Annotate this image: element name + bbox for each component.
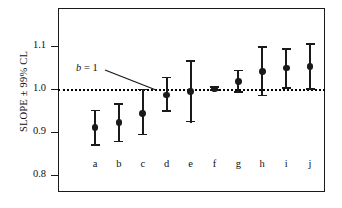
error-bar-cap-upper (258, 46, 267, 48)
error-bar-cap-upper (306, 43, 315, 45)
error-bar-cap-lower (186, 121, 195, 123)
x-axis-category-label: f (204, 158, 224, 169)
y-axis-tick-mark (51, 132, 59, 133)
annotation-leader-line (104, 68, 164, 98)
x-axis-category-label: h (252, 158, 272, 169)
error-bar-cap-lower (91, 144, 100, 146)
x-axis-category-label: i (276, 158, 296, 169)
x-axis-category-label: c (133, 158, 153, 169)
error-bar-cap-lower (282, 87, 291, 89)
error-bar-cap-upper (162, 77, 171, 79)
figure-slope-confidence-limits: SLOPE ± 99% CL 0.80.91.01.1 b = 1 abcdef… (0, 0, 342, 208)
error-bar-cap-lower (234, 91, 243, 93)
data-point-marker (283, 65, 290, 72)
y-axis-tick-label: 0.8 (12, 169, 46, 180)
data-point-marker (259, 68, 266, 75)
x-axis-category-label: a (85, 158, 105, 169)
x-axis-category-label: b (109, 158, 129, 169)
y-axis-tick-label: 0.9 (12, 126, 46, 137)
x-axis-category-label: j (300, 158, 320, 169)
y-axis-tick-mark (51, 46, 59, 47)
error-bar-cap-lower (114, 141, 123, 143)
y-axis-tick-label: 1.0 (12, 83, 46, 94)
data-point-marker (116, 119, 123, 126)
y-axis-tick-label: 1.1 (12, 40, 46, 51)
data-point-marker (235, 78, 242, 85)
data-point-marker (187, 88, 194, 95)
error-bar-cap-upper (282, 48, 291, 50)
y-axis-tick-mark (51, 175, 59, 176)
error-bar-cap-lower (258, 95, 267, 97)
error-bar-cap-upper (186, 60, 195, 62)
error-bar-cap-upper (234, 70, 243, 72)
annotation-equals-one: = 1 (81, 62, 97, 73)
reference-line-annotation: b = 1 (76, 62, 98, 73)
error-bar-cap-upper (91, 110, 100, 112)
error-bar-cap-lower (306, 88, 315, 90)
x-axis-category-label: d (157, 158, 177, 169)
x-axis-category-label: g (228, 158, 248, 169)
error-bar-cap-upper (114, 103, 123, 105)
error-bar-cap-lower (138, 134, 147, 136)
error-bar-cap-upper (138, 89, 147, 91)
x-axis-category-label: e (181, 158, 201, 169)
error-bar-cap-lower (162, 110, 171, 112)
data-point-marker (211, 86, 218, 93)
